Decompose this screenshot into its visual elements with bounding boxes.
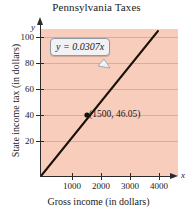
x-tick-1000	[72, 173, 73, 180]
x-axis-symbol: x	[181, 170, 185, 180]
gridline-60	[41, 89, 178, 90]
y-tick-100	[36, 37, 44, 38]
x-axis-title: Gross income (in dollars)	[16, 196, 181, 207]
x-axis-arrow-icon	[170, 173, 178, 179]
y-tick-40	[36, 115, 44, 116]
y-tick-80	[36, 63, 44, 64]
x-axis-line	[40, 176, 171, 177]
x-tick-label-4000: 4000	[142, 182, 176, 191]
y-axis-line	[40, 23, 41, 176]
data-point-label: (1500, 46.05)	[89, 109, 140, 119]
chart-figure: Pennsylvania Taxes y x 100 80 60 40 20 1…	[0, 0, 193, 214]
y-axis-title: State income tax (in dollars)	[10, 26, 21, 176]
y-axis-symbol: y	[31, 22, 35, 32]
x-tick-4000	[159, 173, 160, 180]
y-tick-20	[36, 141, 44, 142]
chart-title: Pennsylvania Taxes	[0, 1, 193, 13]
gridline-20	[41, 141, 178, 142]
y-tick-60	[36, 89, 44, 90]
x-tick-3000	[130, 173, 131, 180]
equation-callout: y = 0.0307x	[50, 38, 110, 56]
x-tick-2000	[101, 173, 102, 180]
y-axis-arrow-icon	[37, 17, 43, 25]
gridline-80	[41, 63, 178, 64]
